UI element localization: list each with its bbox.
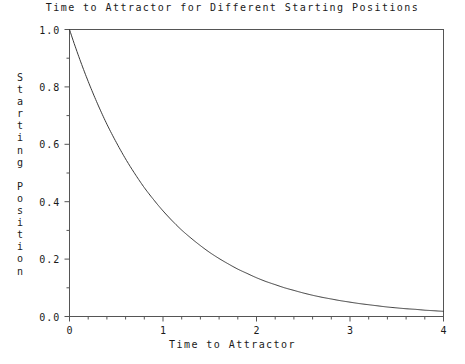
plot-area: [0, 0, 465, 364]
x-axis-label: Time to Attractor: [0, 339, 465, 350]
plot-background: [70, 30, 444, 317]
chart-figure: Time to Attractor for Different Starting…: [0, 0, 465, 364]
